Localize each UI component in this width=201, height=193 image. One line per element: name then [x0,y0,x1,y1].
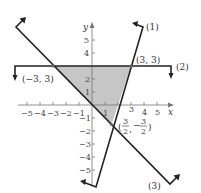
line-1-arrow-top-icon [132,21,138,27]
svg-text:3: 3 [123,117,128,126]
point-label-left: (−3, 3) [22,74,54,84]
x-tick-label: −5 [21,109,33,118]
line-1-arrow-bottom-icon [80,179,86,185]
vertex-right [129,64,132,67]
y-tick-label: −5 [79,166,91,175]
line-2-arrow-right-icon [169,73,174,79]
svg-text:,: , [129,124,132,134]
y-tick-label: −2 [79,127,91,136]
x-tick-label: −3 [47,109,59,118]
y-tick-label: −4 [79,153,91,162]
x-tick-label: −2 [60,109,72,118]
y-tick-label: −3 [79,140,91,149]
svg-text:2: 2 [141,127,146,136]
y-tick-label: −1 [79,114,91,123]
x-tick-label: 5 [155,108,160,117]
y-tick-label: 5 [84,36,89,45]
x-axis-label: x [168,107,173,117]
svg-text:2: 2 [123,127,128,136]
svg-text:(: ( [118,122,122,132]
point-label-right: (3, 3) [136,55,160,65]
vertex-left [51,64,54,67]
line-1-label: (1) [146,22,159,32]
svg-text:): ) [148,122,152,132]
y-axis-arrow-icon [90,22,95,28]
line-3-label: (3) [148,181,161,191]
x-tick-label: 3 [129,105,134,114]
line-2-label: (2) [176,62,189,72]
x-tick-label: −4 [34,109,46,118]
svg-text:3: 3 [141,117,146,126]
point-label-bottom: ( 3 2 , − 3 2 ) [118,117,152,136]
svg-text:−: − [133,120,141,130]
y-axis-label: y [82,22,89,32]
x-tick-label: 4 [142,108,147,117]
vertex-bottom [110,123,113,126]
y-tick-label: 4 [84,49,89,58]
line-2-arrow-left-icon [13,75,18,81]
graph-canvas: −5 −4 −3 −2 −1 1 3 4 5 x 5 4 2 1 −1 −2 −… [0,0,201,193]
y-tick-label: 2 [85,75,90,84]
y-tick-label: 1 [85,88,90,97]
